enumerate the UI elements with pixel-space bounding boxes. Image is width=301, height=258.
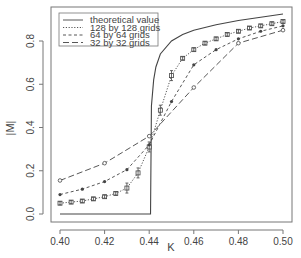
x-tick-label: 0.50 (273, 236, 293, 247)
series-64-by-64-grids (58, 24, 284, 196)
x-tick-label: 0.46 (184, 236, 204, 247)
x-tick-label: 0.40 (50, 236, 70, 247)
y-tick-label: 0.6 (25, 77, 36, 91)
x-axis-label: K (167, 241, 175, 253)
magnetization-chart: 0.400.420.440.460.480.50 0.00.20.40.60.8… (0, 0, 301, 258)
y-axis: 0.00.20.40.60.8 (25, 34, 43, 221)
y-tick-label: 0.2 (25, 163, 36, 177)
x-tick-label: 0.42 (95, 236, 115, 247)
x-tick-label: 0.44 (139, 236, 159, 247)
y-tick-label: 0.8 (25, 34, 36, 48)
legend-item: 32 by 32 grids (90, 37, 150, 48)
legend: theoretical value128 by 128 grids64 by 6… (59, 13, 160, 48)
y-axis-label: |M| (4, 121, 16, 136)
x-tick-label: 0.48 (229, 236, 249, 247)
y-tick-label: 0.0 (25, 207, 36, 221)
series-32-by-32-grids (58, 28, 285, 182)
y-tick-label: 0.4 (25, 120, 36, 134)
